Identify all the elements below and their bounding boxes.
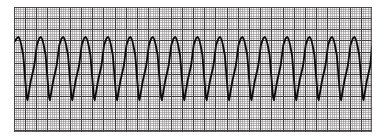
ecg-page: [0, 0, 389, 139]
ecg-strip-container: [14, 7, 372, 132]
ecg-chart: [14, 7, 372, 132]
